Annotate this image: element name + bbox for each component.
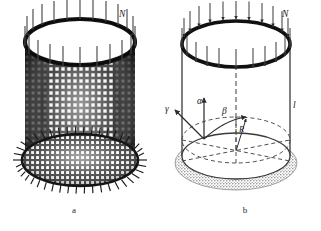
load-label-N-b: N bbox=[281, 9, 289, 19]
panel-b-drawing: N l γ α β R bbox=[160, 0, 321, 231]
panel-b-schematic: N l γ α β R b bbox=[160, 0, 321, 231]
panel-a-caption: a bbox=[64, 205, 84, 215]
figure-container: N a bbox=[0, 0, 321, 231]
gamma-label-b: γ bbox=[165, 104, 169, 114]
length-label-l-b: l bbox=[293, 100, 296, 110]
panel-b-caption: b bbox=[235, 205, 255, 215]
alpha-label-b: α bbox=[197, 96, 203, 106]
panel-a-drawing: N bbox=[0, 0, 160, 231]
load-label-N-a: N bbox=[118, 9, 126, 19]
radius-label-R-b: R bbox=[238, 124, 245, 134]
gamma-vector-b bbox=[175, 110, 204, 139]
panel-a-mesh-cylinder: N a bbox=[0, 0, 160, 231]
bottom-disc-mesh-a bbox=[22, 134, 138, 186]
beta-label-b: β bbox=[221, 106, 227, 116]
